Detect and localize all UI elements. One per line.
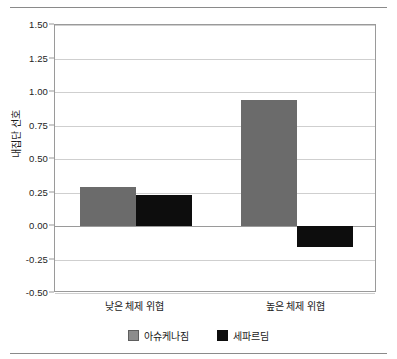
bar-sephardim-high [297,226,353,247]
x-axis-label: 낮은 체제 위협 [105,298,165,313]
gridline [55,159,375,160]
y-tick-label: 0.75 [29,119,48,130]
chart-legend: 아슈케나짐세파르딤 [0,328,397,343]
y-tick-label: 0.50 [29,153,48,164]
legend-label: 아슈케나짐 [144,328,189,343]
figure-top-rule [10,7,387,8]
bar-ashkenazim-high [241,100,297,226]
y-tick-label: 1.25 [29,52,48,63]
legend-item-ashkenazim[interactable]: 아슈케나짐 [128,328,189,343]
y-tick-label: -0.25 [26,253,48,264]
legend-label: 세파르딤 [233,328,269,343]
figure-bottom-rule [10,353,387,354]
bar-sephardim-low [136,195,192,226]
plot-area [54,24,376,292]
gridline [55,126,375,127]
gridline [55,25,375,26]
y-tick-label: -0.50 [26,287,48,298]
legend-swatch-icon [217,330,228,341]
legend-swatch-icon [128,330,139,341]
y-tick-label: 1.50 [29,19,48,30]
gridline [55,260,375,261]
x-axis-label: 높은 체제 위협 [266,298,326,313]
gridline [55,293,375,294]
gridline [55,92,375,93]
chart-figure: 내집단 선호 1.501.251.000.750.500.250.00-0.25… [0,0,397,359]
y-axis: 1.501.251.000.750.500.250.00-0.25-0.50 [0,0,54,292]
gridline [55,59,375,60]
y-tick-label: 1.00 [29,86,48,97]
y-tick-label: 0.00 [29,220,48,231]
legend-item-sephardim[interactable]: 세파르딤 [217,328,269,343]
bar-ashkenazim-low [80,187,136,226]
y-tick-label: 0.25 [29,186,48,197]
